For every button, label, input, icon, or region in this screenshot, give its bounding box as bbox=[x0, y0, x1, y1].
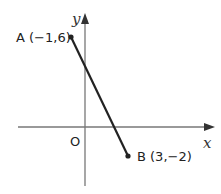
y-axis-arrow-icon bbox=[81, 13, 89, 24]
x-axis-label: x bbox=[203, 134, 212, 152]
origin-label: O bbox=[70, 134, 80, 149]
coordinate-diagram: y x O A (−1,6) B (3,−2) bbox=[0, 0, 221, 194]
point-b bbox=[125, 153, 130, 158]
point-a-label: A (−1,6) bbox=[16, 30, 71, 45]
point-b-label: B (3,−2) bbox=[137, 149, 192, 164]
y-axis bbox=[81, 13, 89, 186]
y-axis-label: y bbox=[71, 10, 81, 28]
x-axis-arrow-icon bbox=[204, 123, 215, 131]
